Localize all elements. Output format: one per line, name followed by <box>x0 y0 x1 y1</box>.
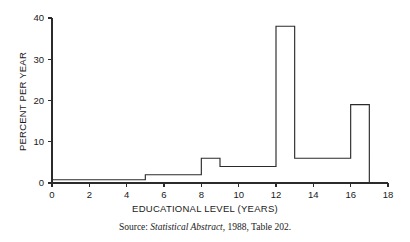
x-tick-label: 2 <box>87 189 92 200</box>
source-caption: Source: Statistical Abstract, 1988, Tabl… <box>0 222 410 232</box>
y-tick-label: 30 <box>33 54 44 65</box>
y-axis-title: PERCENT PER YEAR <box>17 22 28 182</box>
x-tick-label: 16 <box>345 189 356 200</box>
y-tick-label: 10 <box>33 136 44 147</box>
x-tick-label: 12 <box>271 189 282 200</box>
x-tick-label: 8 <box>199 189 204 200</box>
histogram-bars <box>52 26 369 183</box>
x-tick-label: 14 <box>308 189 319 200</box>
y-tick-label: 20 <box>33 95 44 106</box>
histogram-svg: 010203040 024681012141618 <box>0 0 410 200</box>
x-axis-ticks: 024681012141618 <box>49 183 393 200</box>
x-axis-title: EDUCATIONAL LEVEL (YEARS) <box>0 203 410 214</box>
x-tick-label: 4 <box>124 189 129 200</box>
x-tick-label: 0 <box>49 189 54 200</box>
source-prefix: Source: <box>119 222 148 232</box>
y-tick-label: 40 <box>33 12 44 23</box>
histogram-outline-path <box>52 26 369 183</box>
x-tick-label: 18 <box>383 189 394 200</box>
x-tick-label: 10 <box>233 189 244 200</box>
x-tick-label: 6 <box>161 189 166 200</box>
source-suffix: , 1988, Table 202. <box>223 222 291 232</box>
y-tick-label: 0 <box>39 177 44 188</box>
source-publication-title: Statistical Abstract <box>150 222 222 232</box>
chart-plot-area: 010203040 024681012141618 PERCENT PER YE… <box>0 0 410 200</box>
histogram-figure: 010203040 024681012141618 PERCENT PER YE… <box>0 0 410 242</box>
y-axis-ticks: 010203040 <box>33 12 52 188</box>
